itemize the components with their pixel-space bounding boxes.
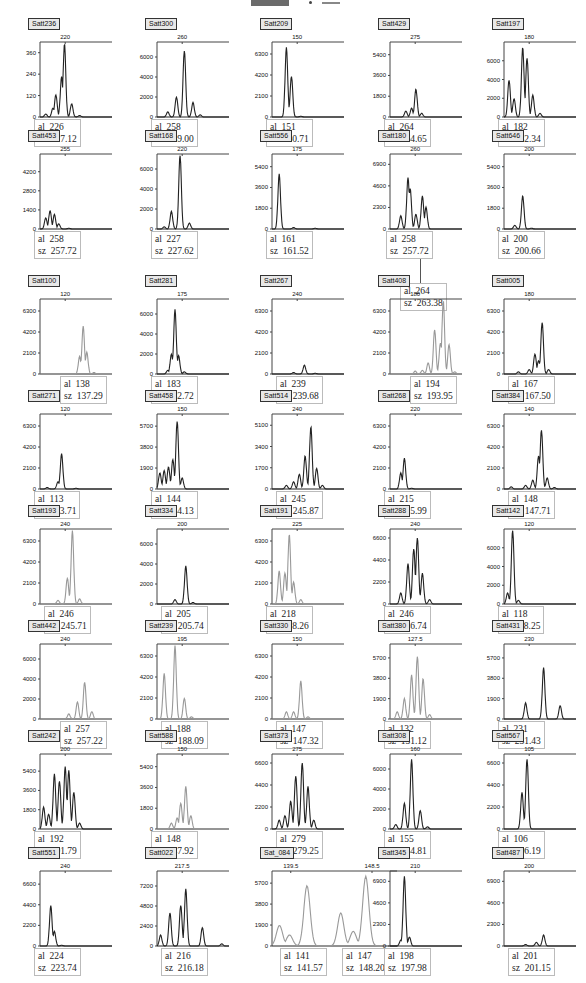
y-tick-label: 2100 xyxy=(23,350,37,356)
y-tick-label: 4600 xyxy=(373,900,387,906)
peak-trace xyxy=(40,44,112,117)
allele-value: al 148 xyxy=(512,494,538,504)
electropherogram-plot: 2750180036005400 xyxy=(368,30,472,121)
y-tick-label: 4200 xyxy=(23,444,37,450)
x-ref-label: 150 xyxy=(292,34,303,40)
size-value: sz 216.18 xyxy=(165,963,204,973)
electropherogram-plot: 2250210042006300 xyxy=(250,517,354,608)
y-tick-label: 5700 xyxy=(255,880,269,886)
y-tick-label: 4200 xyxy=(255,72,269,78)
x-ref-label: 240 xyxy=(60,636,71,642)
electropherogram-plot: 2000230046006900 xyxy=(482,859,586,950)
chart-panel: Satt3452100230046006900al 198sz 197.98 xyxy=(368,847,478,982)
peak-trace xyxy=(272,365,344,374)
allele-value: al 198 xyxy=(388,951,414,961)
electropherogram-plot: 1400210042006300 xyxy=(482,402,586,493)
y-tick-label: 6300 xyxy=(255,51,269,57)
allele-call-box: al 201sz 201.15 xyxy=(508,948,555,976)
allele-value: al 138 xyxy=(64,379,90,389)
marker-label: Satt646 xyxy=(492,130,524,142)
peak-trace xyxy=(272,427,344,489)
allele-value: al 239 xyxy=(280,379,306,389)
peak-trace xyxy=(40,531,112,605)
y-tick-label: 4200 xyxy=(255,674,269,680)
marker-label: Satt487 xyxy=(492,847,524,859)
allele-call-box: al 227sz 227.62 xyxy=(151,231,198,259)
y-tick-label: 2200 xyxy=(23,922,37,928)
y-tick-label: 6300 xyxy=(23,423,37,429)
peak-trace xyxy=(157,646,229,720)
y-tick-label: 3800 xyxy=(373,675,387,681)
electropherogram-plot: 2400210042006300 xyxy=(250,287,354,378)
y-tick-label: 6000 xyxy=(140,541,154,547)
size-value: sz 141.57 xyxy=(284,963,323,973)
peak-trace xyxy=(390,876,462,946)
y-tick-label: 1900 xyxy=(487,696,501,702)
y-tick-label: 2300 xyxy=(373,921,387,927)
chart-panel: Satt5512400220044006600al 224sz 223.74 xyxy=(18,847,128,982)
x-ref-label: 180 xyxy=(524,34,535,40)
y-tick-label: 2000 xyxy=(23,696,37,702)
marker-label: Satt239 xyxy=(145,620,177,632)
allele-value: al 192 xyxy=(38,834,64,844)
y-tick-label: 6300 xyxy=(255,308,269,314)
marker-label: Satt022 xyxy=(145,847,177,859)
x-ref-label: 120 xyxy=(60,406,71,412)
x-ref-label: 150 xyxy=(292,636,303,642)
y-tick-label: 5400 xyxy=(487,164,501,170)
y-tick-label: 240 xyxy=(26,71,37,77)
peak-trace xyxy=(157,422,229,489)
y-tick-label: 4200 xyxy=(23,329,37,335)
y-tick-label: 6000 xyxy=(487,545,501,551)
x-ref-label: 175 xyxy=(292,146,303,152)
electropherogram-plot: 2550140028004200 xyxy=(18,142,122,233)
chart-panel: Sat_084139.5148.50190038005700al 141sz 1… xyxy=(250,847,360,982)
y-tick-label: 2100 xyxy=(373,350,387,356)
chart-panel: Satt4872000230046006900al 201sz 201.15 xyxy=(482,847,586,982)
allele-call-box: al 258sz 257.72 xyxy=(386,231,433,259)
electropherogram-plot: 127.50190038005700 xyxy=(368,632,472,723)
electropherogram-plot: 2200210042006300 xyxy=(368,402,472,493)
marker-label: Satt242 xyxy=(28,730,60,742)
peak-trace xyxy=(390,458,462,489)
size-value: sz 201.15 xyxy=(512,963,551,973)
electropherogram-plot: 2400220044006600 xyxy=(368,517,472,608)
y-tick-label: 0 xyxy=(383,371,387,377)
y-tick-label: 4200 xyxy=(23,559,37,565)
y-tick-label: 0 xyxy=(265,826,269,832)
y-tick-label: 2000 xyxy=(140,581,154,587)
y-tick-label: 0 xyxy=(265,716,269,722)
y-tick-label: 0 xyxy=(150,601,154,607)
marker-label: Satt442 xyxy=(28,620,60,632)
allele-value: al 258 xyxy=(390,234,416,244)
electropherogram-plot: 1500210042006300 xyxy=(250,30,354,121)
marker-label: Satt197 xyxy=(492,18,524,30)
y-tick-label: 2000 xyxy=(487,95,501,101)
chart-panel: Satt1682200200040006000al 227sz 227.62 xyxy=(135,130,245,265)
marker-label: Satt209 xyxy=(260,18,292,30)
x-ref-label: 260 xyxy=(410,146,421,152)
x-ref-label: 220 xyxy=(410,406,421,412)
peak-trace xyxy=(272,174,344,229)
electropherogram-plot: 1800210042006300 xyxy=(368,287,472,378)
marker-label: Satt180 xyxy=(378,130,410,142)
electropherogram-plot: 1200210042006300 xyxy=(18,287,122,378)
peak-trace xyxy=(272,47,344,117)
y-tick-label: 6300 xyxy=(487,308,501,314)
x-ref-label: 180 xyxy=(410,291,421,297)
peak-trace xyxy=(157,786,229,829)
allele-value: al 246 xyxy=(48,609,74,619)
peak-trace xyxy=(390,657,462,719)
allele-value: al 144 xyxy=(155,494,181,504)
y-tick-label: 5700 xyxy=(140,423,154,429)
peak-trace xyxy=(40,906,112,946)
x-ref-label: 200 xyxy=(524,146,535,152)
electropherogram-plot: 1500180036005400 xyxy=(135,742,239,833)
electropherogram-plot: 1800210042006300 xyxy=(482,287,586,378)
x-ref-label: 240 xyxy=(410,521,421,527)
size-value: sz 257.72 xyxy=(390,246,429,256)
y-tick-label: 4000 xyxy=(140,74,154,80)
electropherogram-plot: 1500210042006300 xyxy=(250,632,354,723)
electropherogram-plot: 1050220044006600 xyxy=(482,742,586,833)
y-tick-label: 3800 xyxy=(487,675,501,681)
